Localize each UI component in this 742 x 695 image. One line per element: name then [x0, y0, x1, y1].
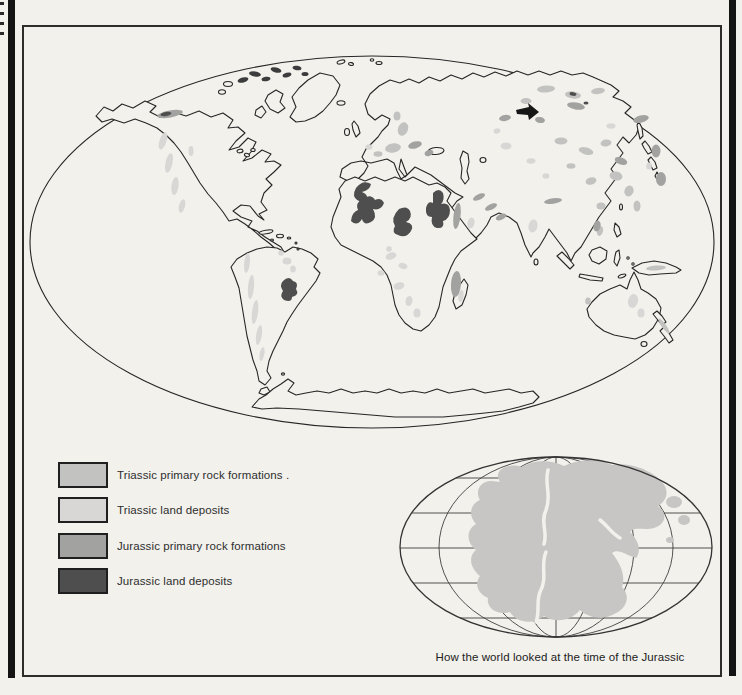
- legend-label: Jurassic primary rock formations: [117, 540, 286, 552]
- north-america: [96, 101, 284, 252]
- sakhalin: [637, 122, 643, 139]
- falkland: [281, 373, 284, 375]
- inset-caption: How the world looked at the time of the …: [405, 651, 715, 663]
- legend-label: Jurassic land deposits: [117, 575, 232, 587]
- legend-row-triassic-primary: Triassic primary rock formations .: [58, 462, 289, 488]
- tasmania: [641, 342, 647, 347]
- arctic-dark-islands: [237, 65, 308, 84]
- svalbard-2: [348, 62, 353, 66]
- great-lake-3: [251, 149, 255, 152]
- arctic-islet-2: [219, 90, 226, 94]
- legend-swatch-triassic-primary: [58, 462, 108, 488]
- ireland: [345, 129, 350, 136]
- legend-row-triassic-land: Triassic land deposits: [58, 497, 229, 523]
- legend-swatch-jurassic-primary: [58, 533, 108, 559]
- moluccas-1: [627, 257, 629, 259]
- antilles-2: [297, 248, 299, 250]
- continent-outlines: [96, 59, 681, 417]
- svalbard-1: [337, 59, 346, 65]
- arctic-islet-1: [224, 82, 233, 87]
- australia: [587, 272, 661, 339]
- timor: [618, 273, 627, 279]
- philippines: [614, 223, 621, 237]
- great-lake-1: [237, 149, 244, 154]
- sri-lanka: [534, 259, 538, 265]
- legend-row-jurassic-land: Jurassic land deposits: [58, 568, 232, 594]
- hispaniola: [277, 234, 284, 238]
- sulawesi: [614, 250, 620, 266]
- uk: [352, 121, 360, 137]
- caspian-sea: [460, 151, 469, 184]
- franz-josef-1: [376, 62, 382, 65]
- antilles-1: [295, 242, 297, 244]
- taiwan: [620, 204, 623, 210]
- aral-sea: [480, 158, 486, 163]
- jamaica: [271, 239, 274, 241]
- legend-swatch-jurassic-land: [58, 568, 108, 594]
- moluccas-2: [632, 263, 634, 265]
- iceland: [337, 101, 345, 105]
- japan-north: [642, 141, 652, 154]
- puerto-rico: [287, 237, 291, 239]
- baffin-island: [265, 90, 285, 113]
- franz-josef-2: [370, 59, 374, 61]
- legend-label: Triassic land deposits: [117, 504, 229, 516]
- java: [579, 274, 603, 281]
- legend-label: Triassic primary rock formations .: [117, 469, 289, 481]
- borneo: [589, 247, 607, 264]
- greenland: [290, 73, 340, 122]
- legend-swatch-triassic-land: [58, 497, 108, 523]
- arctic-island: [255, 106, 266, 118]
- antarctica: [252, 379, 539, 417]
- inset-map: [400, 457, 712, 637]
- pangaea-landmass: [469, 460, 691, 622]
- legend-row-jurassic-primary: Jurassic primary rock formations: [58, 533, 286, 559]
- book-page: Triassic primary rock formations . Trias…: [0, 0, 742, 695]
- cuba: [259, 229, 273, 235]
